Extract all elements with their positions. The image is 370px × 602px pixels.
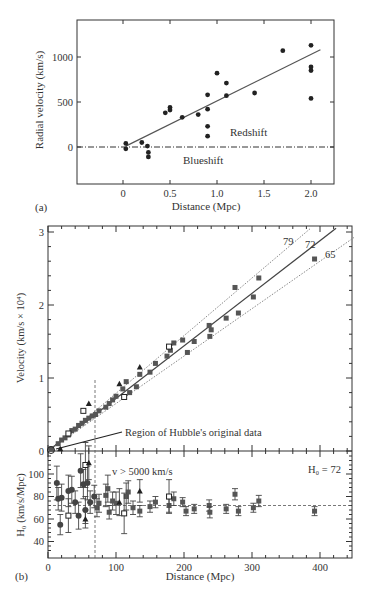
data-point [205,124,210,129]
data-point [127,390,132,395]
data-point [207,334,212,339]
data-point [97,501,102,506]
data-point-open [66,431,71,436]
data-point [131,505,136,510]
hubble-line-label: 65 [325,249,336,260]
data-point [59,495,65,501]
x-tick-label: 1.0 [210,188,223,199]
data-point-triangle [137,488,143,494]
x-tick-label: 100 [108,562,124,573]
x-tick-label: 1.5 [257,188,270,199]
data-point [120,386,125,391]
data-point [280,48,285,53]
data-point [207,503,212,508]
panel-b-lower-y-label: H₀ (km/s/Mpc) [15,473,27,537]
data-point [66,513,71,518]
y-tick-label: 3 [39,227,44,238]
data-point [139,140,144,145]
data-point [236,509,241,514]
data-point [97,408,102,413]
data-point [87,499,93,505]
data-point [165,354,170,359]
y-tick-label: 0 [68,142,73,153]
data-point-triangle [137,364,143,370]
x-tick-label: 2.0 [304,188,317,199]
data-point [180,338,185,343]
panel-b-x-label: Distance (Mpc) [166,570,235,583]
data-point [105,486,110,491]
blueshift-label: Blueshift [183,154,223,166]
data-point [137,372,142,377]
data-point-triangle [86,401,92,407]
data-point [171,340,176,345]
data-point [224,316,229,321]
data-point-open [167,344,172,349]
y-tick-label: 0 [39,446,44,457]
h0-72-label: H₀ = 72 [308,464,341,475]
panel-a-tag: (a) [35,201,48,214]
panel-b-frame [48,226,352,558]
data-point [251,505,256,510]
data-point [180,500,185,505]
data-point [205,92,210,97]
y-tick-label: 100 [28,469,44,480]
panel-a-x-label: Distance (Mpc) [172,200,241,213]
data-point [163,110,168,115]
data-point [192,339,197,344]
y-tick-label: 60 [34,514,45,525]
data-point [256,499,261,504]
data-point [168,108,173,113]
data-point [123,141,128,146]
data-point [233,492,238,497]
v-5000-label: v > 5000 km/s [112,466,172,477]
data-point [252,91,257,96]
y-tick-label: 2 [39,300,44,311]
hubble-line-label: 79 [283,236,294,247]
data-point [171,496,176,501]
data-point [153,361,158,366]
data-point [148,504,153,509]
data-point [153,500,158,505]
data-point [309,43,314,48]
redshift-label: Redshift [230,126,267,138]
data-point [180,115,185,120]
data-point [124,379,129,384]
data-point [146,150,151,155]
panel-b-upper-y-label: Velocity (km/s × 10⁴) [15,292,27,383]
data-point [148,370,153,375]
data-point [205,107,210,112]
data-point [76,513,82,519]
y-tick-label: 80 [34,491,45,502]
data-point [57,522,63,528]
data-point [256,275,261,280]
hubble-line-65 [48,237,354,451]
hubble-line-label: 72 [305,239,316,250]
data-point [184,509,189,514]
x-tick-label: 0 [120,188,125,199]
panel-a-fit-line [126,50,321,146]
data-point-triangle [116,381,122,387]
hubble-region-label: Region of Hubble's original data [125,427,262,438]
data-point [185,350,190,355]
data-point [209,327,214,332]
data-point [167,494,172,499]
x-tick-label: 0 [45,562,50,573]
data-point [224,81,229,86]
x-tick-label: 400 [312,562,328,573]
data-point [123,146,128,151]
data-point [54,480,60,486]
data-point [192,506,197,511]
panel-b-axes: 01002003004000123406080100 [28,226,352,573]
y-tick-label: 40 [34,536,45,547]
data-point [145,144,150,149]
data-point [309,96,314,101]
data-point [205,134,210,139]
data-point [251,294,256,299]
x-tick-label: 300 [244,562,260,573]
panel-a-x-axis: 00.51.01.52.0 [120,20,317,199]
data-point [114,394,119,399]
data-point [309,68,314,73]
panel-b-hubble-chart: 01002003004000123406080100 797265 Region… [15,226,354,583]
data-point-triangle [82,516,88,522]
panel-a-radial-velocity-chart: 00.51.01.52.0 05001000 Redshift Blueshif… [33,20,334,214]
